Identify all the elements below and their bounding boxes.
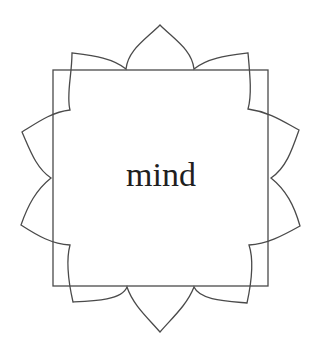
center-label: mind (126, 156, 196, 193)
lotus-square-diagram: mind (0, 0, 325, 355)
